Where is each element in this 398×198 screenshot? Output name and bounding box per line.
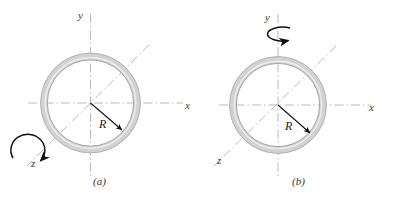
y-axis-label: y — [78, 10, 83, 21]
figure-a-graphics — [0, 0, 199, 198]
y-axis-label: y — [265, 12, 270, 23]
figure-panel-a: y x z R (a) — [0, 0, 199, 198]
rotation-arc-z — [11, 134, 45, 161]
radius-label: R — [99, 118, 106, 130]
radius-arrow — [278, 105, 310, 133]
z-axis-label: z — [217, 155, 221, 166]
figure-canvas: y x z R (a) — [0, 0, 398, 198]
radius-label: R — [285, 120, 292, 132]
x-axis-label: x — [185, 100, 190, 111]
figure-panel-b: y x z R (b) — [199, 0, 398, 198]
panel-caption-a: (a) — [0, 176, 199, 187]
x-axis-label: x — [369, 102, 374, 113]
panel-caption-b: (b) — [199, 176, 398, 187]
z-axis-label: z — [31, 158, 35, 169]
figure-b-graphics — [199, 0, 398, 198]
rotation-arc-y — [268, 27, 290, 41]
